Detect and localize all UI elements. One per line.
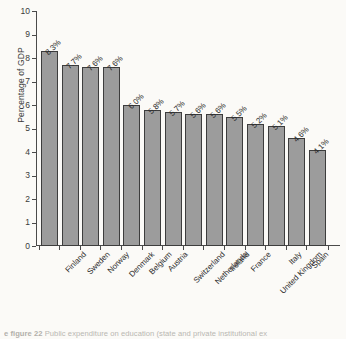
- y-axis-tick: [32, 199, 36, 200]
- plot-area: 8.3%7.7%7.6%7.6%6.0%5.8%5.7%5.6%5.6%5.5%…: [36, 11, 336, 246]
- bar-value-label: 5.5%: [229, 104, 248, 123]
- bar: [185, 114, 202, 246]
- figure-caption-text: Public expenditure on education (state a…: [45, 329, 267, 338]
- bar: [82, 67, 99, 246]
- bar: [123, 105, 140, 246]
- y-axis-tick: [32, 105, 36, 106]
- bar-chart-figure: Percentage of GDP 8.3%7.7%7.6%7.6%6.0%5.…: [0, 0, 346, 339]
- y-axis-tick-label: 10: [2, 7, 30, 16]
- bar: [62, 65, 79, 246]
- y-axis-tick: [32, 152, 36, 153]
- bar: [309, 150, 326, 246]
- y-axis-tick-label: 6: [2, 101, 30, 110]
- y-axis-tick-label: 8: [2, 54, 30, 63]
- x-axis-category-label: Italy: [287, 250, 303, 266]
- bar: [41, 51, 58, 246]
- bars-container: 8.3%7.7%7.6%7.6%6.0%5.8%5.7%5.6%5.6%5.5%…: [36, 11, 336, 246]
- bar: [206, 114, 223, 246]
- x-axis-category-label: Ireland: [228, 250, 251, 273]
- x-axis-category-label: Finland: [64, 250, 88, 274]
- y-axis-tick: [32, 11, 36, 12]
- y-axis-tick: [32, 246, 36, 247]
- y-axis-tick-label: 1: [2, 218, 30, 227]
- y-axis-tick: [32, 58, 36, 59]
- y-axis-tick: [32, 82, 36, 83]
- bar: [165, 112, 182, 246]
- y-axis-tick-label: 4: [2, 148, 30, 157]
- bar: [226, 117, 243, 246]
- y-axis-tick-label: 3: [2, 171, 30, 180]
- y-axis-tick-label: 0: [2, 242, 30, 251]
- x-axis-labels: FinlandSwedenNorwayDenmarkBelgiumAustria…: [36, 250, 346, 330]
- y-axis-tick-label: 7: [2, 77, 30, 86]
- x-axis-category-label: Spain: [309, 250, 329, 270]
- bar: [268, 126, 285, 246]
- bar: [288, 138, 305, 246]
- y-axis-tick-label: 9: [2, 30, 30, 39]
- y-axis-tick: [32, 223, 36, 224]
- y-axis-tick: [32, 35, 36, 36]
- figure-caption: e figure 22 Public expenditure on educat…: [4, 329, 346, 338]
- figure-caption-number: e figure 22: [4, 329, 43, 338]
- bar: [103, 67, 120, 246]
- y-axis-tick-label: 5: [2, 124, 30, 133]
- y-axis-tick: [32, 176, 36, 177]
- x-axis-category-label: France: [249, 250, 273, 274]
- bar: [247, 124, 264, 246]
- x-axis-category-label: Sweden: [85, 250, 111, 276]
- y-axis-tick: [32, 129, 36, 130]
- bar: [144, 110, 161, 246]
- y-axis-tick-label: 2: [2, 195, 30, 204]
